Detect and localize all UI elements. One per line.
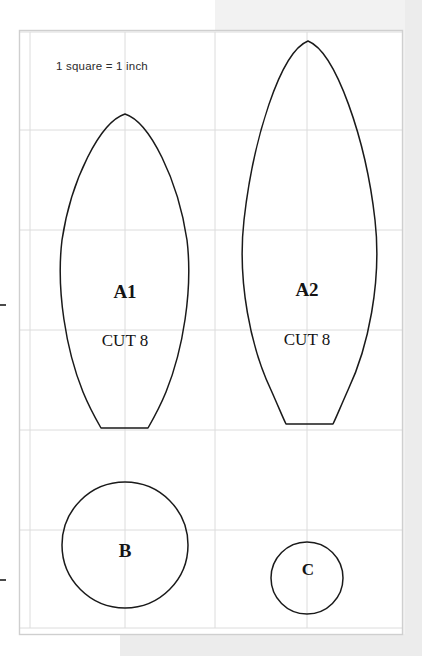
piece-outline-a2 (242, 41, 377, 424)
piece-label-a2: A2 (277, 279, 337, 301)
pattern-drawing (0, 0, 422, 656)
edge-tick-marks (0, 304, 6, 581)
pattern-page: 1 square = 1 inch A1 CUT 8 A2 CUT 8 B C (0, 0, 422, 656)
piece-label-a1: A1 (95, 281, 155, 303)
piece-cut-label-a2: CUT 8 (267, 330, 347, 350)
piece-cut-label-a1: CUT 8 (85, 331, 165, 351)
scale-note: 1 square = 1 inch (56, 60, 148, 72)
piece-label-b: B (95, 540, 155, 562)
piece-label-c: C (278, 560, 338, 580)
